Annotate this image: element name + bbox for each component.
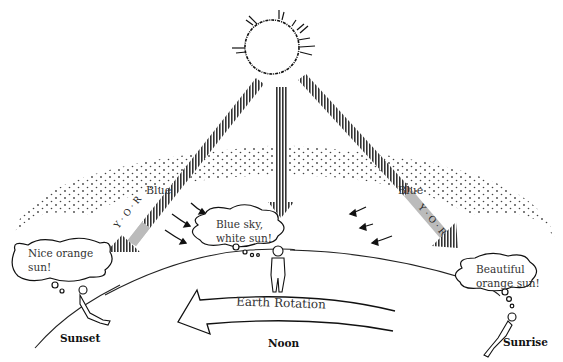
thought-sunset: Nice orange sun!	[28, 246, 93, 274]
caption-sunrise: Sunrise	[503, 336, 548, 348]
thought-noon: Blue sky, white sun!	[216, 217, 272, 245]
thought-noon-line-1: Blue sky,	[216, 217, 272, 231]
person-sunset	[79, 286, 110, 325]
caption-noon: Noon	[268, 337, 299, 349]
scatter-arrows-right	[350, 207, 392, 245]
sun-icon	[232, 10, 315, 74]
scatter-label-right: Blue	[398, 184, 423, 197]
scatter-label-left: Blue	[146, 184, 171, 197]
thought-sunrise: Beautiful orange sun!	[476, 262, 540, 290]
thought-sunset-line-2: sun!	[28, 260, 93, 274]
thought-sunset-line-1: Nice orange	[28, 246, 93, 260]
thought-sunrise-line-1: Beautiful	[476, 262, 540, 276]
thought-noon-line-2: white sun!	[216, 231, 272, 245]
person-sunrise	[484, 313, 516, 357]
thought-sunrise-line-2: orange sun!	[476, 276, 540, 290]
caption-sunset: Sunset	[60, 332, 100, 344]
person-noon	[271, 246, 285, 292]
